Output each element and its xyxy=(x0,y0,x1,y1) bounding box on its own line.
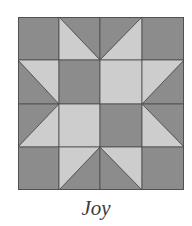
quilt-cell-1-2 xyxy=(100,60,142,104)
quilt-block-graphic xyxy=(18,17,184,190)
quilt-block-joy xyxy=(18,17,184,190)
quilt-cell-1-1 xyxy=(59,60,100,104)
quilt-cell-2-2 xyxy=(100,104,142,147)
quilt-cell-3-3 xyxy=(142,147,184,190)
quilt-cell-2-1 xyxy=(59,104,100,147)
quilt-cell-0-3 xyxy=(142,17,184,60)
quilt-cell-0-0 xyxy=(18,17,59,60)
quilt-cell-3-0 xyxy=(18,147,59,190)
block-caption: Joy xyxy=(0,196,192,220)
